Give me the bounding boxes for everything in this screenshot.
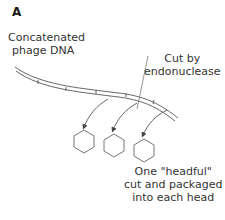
arrow-icon: [113, 103, 137, 130]
arrow-icon: [143, 110, 167, 135]
arrow-icon: [84, 99, 108, 127]
diagram-canvas: [0, 0, 225, 220]
phage-heads: [74, 130, 154, 162]
cut-pointer-line: [137, 56, 148, 109]
hexagon-head-icon: [134, 139, 154, 162]
hexagon-head-icon: [104, 134, 124, 157]
dna-strand: [15, 67, 178, 121]
hexagon-head-icon: [74, 130, 94, 153]
arrows: [84, 99, 167, 135]
